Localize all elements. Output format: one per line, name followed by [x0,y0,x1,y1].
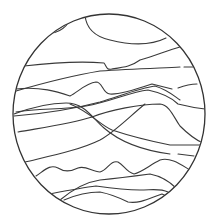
lower-rise-1-line [60,174,176,200]
cross-line-line [70,104,200,145]
mid-wave-line [14,103,194,156]
circle-rim [13,14,205,214]
top-sweep-line [85,15,166,44]
double-band-b-line [16,90,205,112]
top-left-arc-line [44,20,70,33]
peak-line-line [16,82,197,96]
figure-canvas [0,0,216,223]
double-band-a-line [14,86,180,116]
upper-long-1-line [24,47,180,69]
mid-hump-line [18,104,203,143]
circular-sketch [0,0,216,223]
wave-band-line [36,159,190,176]
